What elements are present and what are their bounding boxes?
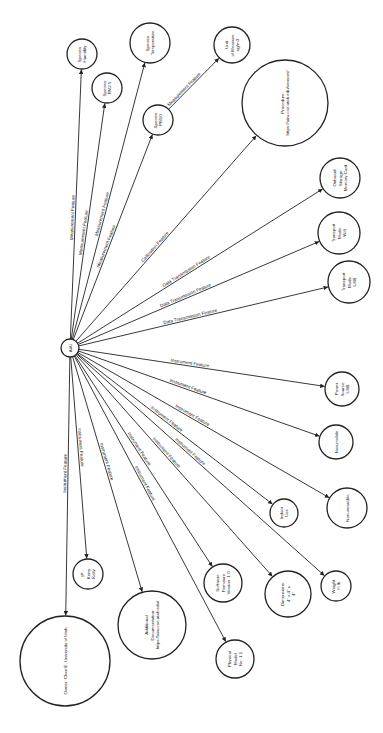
- edge-label: Data Transmission Feature: [162, 254, 212, 288]
- edge-label: Instrument Feature: [174, 403, 210, 427]
- node-software-firmware: SoftwareFirmwareVersion: 1.0: [204, 564, 242, 602]
- node-label: USB: [352, 277, 357, 286]
- node-label: ¼ lb: [336, 581, 341, 590]
- node-label: Non-mobile: [334, 430, 339, 453]
- node-unit-of-measure: Unitof Measure:ug/m3: [214, 27, 250, 63]
- edge-label: Data Transmission Feature: [163, 308, 218, 326]
- edge-weight: Instrument Feature: [77, 354, 325, 576]
- node-onboard-storage: OnboardStorage:Memory Card: [320, 158, 360, 198]
- node-label: No: 1.1: [238, 651, 243, 666]
- edge-line: [73, 357, 143, 592]
- edge-line: [77, 354, 325, 576]
- edge-species-temperature: Measurement Feature: [72, 63, 145, 339]
- node-label: Humidity: [82, 45, 87, 63]
- edge-label: Calibration Feature: [140, 230, 170, 263]
- node-ip-kerry-kelly: IP:KerryKelly: [73, 559, 103, 589]
- edge-label: Instrument Feature: [99, 442, 115, 481]
- node-label: ug/m3: [235, 38, 240, 51]
- edge-unit-of-measure: Measurement Feature: [166, 58, 219, 109]
- node-label: Memory Card: [343, 164, 348, 191]
- node-label: PM2.5: [107, 81, 112, 94]
- edge-line: [169, 58, 219, 109]
- edge-label: Instrument Feature: [170, 358, 210, 369]
- edge-onboard-storage: Data Transmission Feature: [78, 189, 323, 343]
- edge-label: Measurement Feature: [166, 71, 202, 107]
- node-additional-documentation: AdditionalDocumentation:https://airu.coe…: [118, 591, 186, 659]
- node-non-wearable: Non-wearable: [327, 488, 367, 528]
- node-physical-model: PhysicalModelNo: 1.1: [216, 640, 254, 678]
- edge-non-wearable: Instrument Feature: [78, 353, 329, 498]
- node-indoor-use: IndoorUse: [270, 499, 298, 527]
- node-label: https://airu.coe.utah.edu/sensors/: [285, 70, 290, 136]
- edge-ip-kerry-kelly: Instrument Feature: [71, 357, 87, 559]
- node-label: Owner: ChemE, University of Utah: [63, 627, 68, 695]
- edge-transport-wifi: Data Transmission Feature: [78, 241, 319, 344]
- edge-line: [79, 349, 325, 386]
- node-airu: AirU: [61, 339, 79, 357]
- edge-line: [78, 189, 323, 343]
- edge-owner: Instrument Feature: [62, 357, 70, 616]
- node-label: 4": [291, 592, 296, 596]
- edge-line: [72, 63, 145, 339]
- edge-line: [78, 241, 319, 344]
- edge-line: [78, 353, 329, 498]
- node-label: Wifi: [342, 229, 347, 236]
- node-power-source: PowerSource:USB: [325, 372, 359, 406]
- node-species-temperature: Species:Temperature: [130, 23, 170, 63]
- edge-label: Measurement Feature: [94, 191, 110, 236]
- node-transport-wifi: TransportMode:Wifi: [318, 212, 360, 254]
- edge-label: Instrument Feature: [62, 453, 68, 492]
- node-label: PM10: [158, 114, 163, 126]
- node-label: https://airu.coe.utah.edu/: [155, 600, 160, 649]
- node-species-humidity: Species:Humidity: [67, 39, 97, 69]
- edge-label: Measurement Feature: [78, 209, 89, 255]
- edge-species-humidity: Measurement Feature: [69, 69, 81, 339]
- edge-power-source: Instrument Feature: [79, 349, 325, 386]
- node-weight: Weight:¼ lb: [321, 571, 351, 601]
- edge-label: Instrument Feature: [169, 378, 208, 396]
- node-label: AirU: [68, 344, 73, 353]
- node-label: USB: [345, 384, 350, 393]
- node-label: Kelly: [91, 568, 96, 578]
- node-label: Version: 1.0: [226, 571, 231, 595]
- node-transport-usb: TransportMode:USB: [328, 261, 370, 303]
- node-species-pm25: Species:PM2.5: [92, 73, 122, 103]
- edge-additional-documentation: Instrument Feature: [73, 357, 143, 592]
- node-owner: Owner: ChemE, University of Utah: [20, 616, 110, 706]
- node-label: Temperature: [150, 30, 155, 55]
- edge-label: Instrument Feature: [134, 465, 157, 502]
- node-species-pm10: Species:PM10: [143, 105, 173, 135]
- node-dimensions: Dimensions:4" x 4" x4": [265, 571, 311, 617]
- edge-indoor-use: Instrument Feature: [77, 353, 272, 504]
- node-label: Use: [284, 509, 289, 517]
- node-procedure: Procedure:https://airu.coe.utah.edu/sens…: [242, 60, 328, 146]
- node-non-mobile: Non-mobile: [319, 425, 353, 459]
- edge-line: [77, 353, 272, 504]
- knowledge-graph-diagram: Measurement FeatureMeasurement FeatureMe…: [0, 0, 383, 733]
- node-label: Non-wearable: [345, 494, 350, 522]
